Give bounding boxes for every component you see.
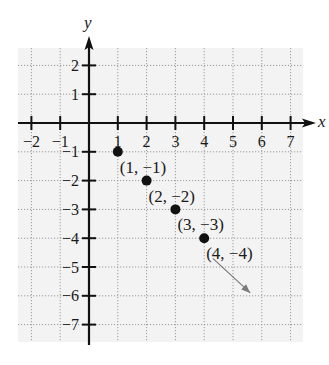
x-tick-label: 3 xyxy=(171,133,179,150)
y-tick-label: −6 xyxy=(62,287,79,304)
data-point-label: (3, −3) xyxy=(177,215,223,234)
y-tick-label: −5 xyxy=(62,259,79,276)
y-tick-label: 2 xyxy=(71,57,79,74)
x-tick-label: 6 xyxy=(258,133,266,150)
coordinate-plane: −2−1123456721−1−2−3−4−5−6−7 (1, −1)(2, −… xyxy=(0,0,329,365)
data-point-label: (1, −1) xyxy=(120,158,166,177)
data-point-marker xyxy=(199,233,209,243)
data-point-label: (2, −2) xyxy=(149,187,195,206)
x-tick-label: 4 xyxy=(200,133,208,150)
x-tick-label: 5 xyxy=(229,133,237,150)
data-point-label: (4, −4) xyxy=(206,244,252,263)
x-axis-label: x xyxy=(317,112,326,131)
y-tick-label: −3 xyxy=(62,201,79,218)
x-tick-label: −2 xyxy=(23,133,40,150)
x-tick-label: 2 xyxy=(143,133,151,150)
y-tick-label: 1 xyxy=(71,86,79,103)
y-tick-label: −4 xyxy=(62,230,79,247)
y-tick-label: −1 xyxy=(62,143,79,160)
data-point-marker xyxy=(170,204,180,214)
y-axis-label: y xyxy=(82,13,92,32)
data-point-marker xyxy=(113,147,123,157)
y-tick-label: −2 xyxy=(62,172,79,189)
data-point-marker xyxy=(142,176,152,186)
y-tick-label: −7 xyxy=(62,316,79,333)
x-tick-label: 7 xyxy=(287,133,295,150)
